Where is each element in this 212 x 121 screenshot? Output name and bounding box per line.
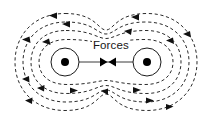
flow-arrow-icon (70, 88, 78, 94)
flow-arrow-group (22, 13, 191, 111)
force-arrow-left-icon (109, 58, 117, 67)
flow-arrow-icon (101, 89, 108, 96)
left-body-center-dot (61, 58, 69, 66)
flow-arrow-icon (42, 39, 51, 46)
flow-arrow-icon (166, 38, 174, 45)
flow-arrow-icon (124, 29, 132, 36)
force-field-diagram: Forces (0, 0, 212, 121)
force-connector-group (79, 58, 133, 67)
flow-arrow-icon (133, 87, 141, 93)
flow-arrow-icon (22, 76, 30, 83)
flow-arrow-icon (49, 13, 57, 20)
right-body-center-dot (143, 58, 151, 66)
flow-arrow-icon (146, 98, 154, 104)
forces-label: Forces (92, 39, 130, 51)
flow-arrow-icon (183, 31, 191, 38)
flow-arrow-icon (25, 98, 33, 105)
flow-arrow-icon (37, 85, 45, 92)
flow-arrow-icon (22, 37, 31, 44)
field-lines-canvas (0, 0, 212, 121)
force-arrow-right-icon (100, 58, 108, 67)
